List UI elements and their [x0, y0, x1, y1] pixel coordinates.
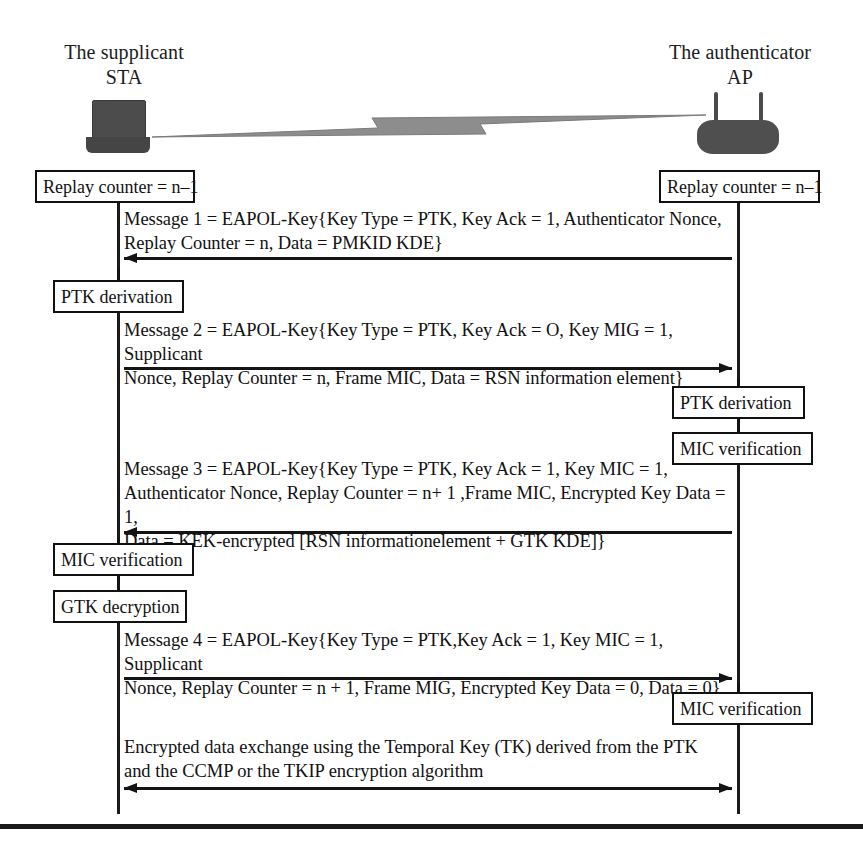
message-3-arrow — [124, 527, 732, 538]
supplicant-title: The supplicant STA — [34, 40, 214, 90]
message-1-text: Message 1 = EAPOL-Key{Key Type = PTK, Ke… — [124, 207, 734, 255]
note-mic-verification-right-2: MIC verification — [672, 692, 813, 725]
laptop-base — [86, 137, 150, 153]
data-exchange-arrow — [124, 783, 732, 794]
arrowhead-left-icon — [124, 253, 137, 263]
arrowhead-right-icon — [719, 783, 732, 793]
message-4-arrow — [124, 673, 732, 684]
note-ptk-derivation-left-label: PTK derivation — [61, 288, 172, 306]
arrow-shaft — [124, 257, 732, 260]
note-gtk-decryption-left: GTK decryption — [53, 590, 187, 623]
authenticator-title: The authenticator AP — [650, 40, 830, 90]
arrow-shaft — [124, 677, 732, 680]
note-ptk-derivation-left: PTK derivation — [53, 280, 184, 313]
note-mic-verification-left: MIC verification — [53, 543, 194, 576]
arrowhead-right-icon — [719, 673, 732, 683]
message-2-arrow — [124, 363, 732, 374]
note-mic-verification-left-label: MIC verification — [61, 551, 182, 569]
note-ptk-derivation-right-label: PTK derivation — [680, 394, 791, 412]
message-3-text: Message 3 = EAPOL-Key{Key Type = PTK, Ke… — [124, 457, 739, 553]
connector-stub-gtk-left — [117, 576, 120, 590]
router-antenna-right — [759, 92, 763, 122]
diagram-canvas: The supplicant STA The authenticator AP … — [0, 0, 863, 845]
laptop-icon — [86, 100, 150, 154]
arrowhead-left-icon — [124, 783, 137, 793]
note-ptk-derivation-right: PTK derivation — [672, 386, 805, 419]
connector-stub-mic-right-1 — [737, 419, 740, 432]
arrowhead-left-icon — [124, 527, 137, 537]
note-gtk-decryption-left-label: GTK decryption — [61, 598, 179, 616]
wireless-lightning-icon — [150, 100, 710, 150]
note-replay-counter-right-label: Replay counter = n–1 — [667, 178, 823, 196]
note-mic-verification-right-2-label: MIC verification — [680, 700, 801, 718]
note-replay-counter-left: Replay counter = n–1 — [35, 170, 195, 203]
arrow-shaft — [124, 531, 732, 534]
message-2-text: Message 2 = EAPOL-Key{Key Type = PTK, Ke… — [124, 318, 734, 390]
laptop-screen — [92, 100, 146, 139]
message-4-text: Message 4 = EAPOL-Key{Key Type = PTK,Key… — [124, 628, 739, 700]
note-replay-counter-left-label: Replay counter = n–1 — [43, 178, 199, 196]
arrowhead-right-icon — [719, 363, 732, 373]
arrow-shaft — [124, 367, 732, 370]
router-antenna-left — [714, 92, 718, 122]
bottom-divider — [0, 824, 863, 829]
message-1-arrow — [124, 253, 732, 264]
note-replay-counter-right: Replay counter = n–1 — [659, 170, 820, 203]
data-exchange-text: Encrypted data exchange using the Tempor… — [124, 735, 739, 783]
note-mic-verification-right-1-label: MIC verification — [680, 440, 801, 458]
arrow-shaft — [124, 787, 732, 790]
